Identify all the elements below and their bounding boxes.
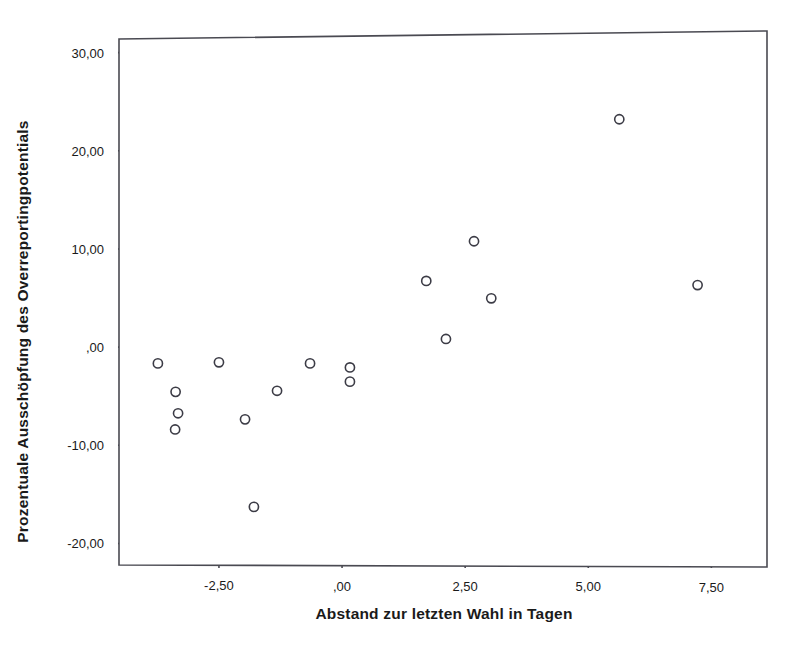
data-point (214, 358, 223, 367)
data-point (305, 359, 314, 368)
y-tick-label: -20,00 (44, 536, 104, 551)
data-point (153, 359, 162, 368)
data-point (422, 276, 431, 285)
y-tick-label: ,00 (44, 340, 104, 355)
data-point (249, 502, 258, 511)
y-axis-title: Prozentuale Ausschöpfung des Overreporti… (0, 0, 46, 663)
data-point (345, 363, 354, 372)
plot-frame-border (119, 31, 767, 567)
data-point (345, 377, 354, 386)
y-tick-label: 30,00 (44, 45, 104, 60)
x-tick-label: ,00 (333, 579, 351, 594)
x-tick-label: 2,50 (453, 579, 478, 594)
data-point (615, 115, 624, 124)
data-point (487, 294, 496, 303)
data-point (171, 387, 180, 396)
y-tick-label: 20,00 (44, 143, 104, 158)
plot-area (118, 30, 768, 568)
x-tick-label: 5,00 (576, 579, 601, 594)
data-point (469, 237, 478, 246)
data-point (693, 280, 702, 289)
data-point (272, 386, 281, 395)
scatter-plot-figure: Prozentuale Ausschöpfung des Overreporti… (0, 0, 803, 663)
plot-canvas (118, 30, 768, 568)
data-point (173, 409, 182, 418)
data-point (441, 334, 450, 343)
data-point-group (153, 115, 702, 512)
x-tick-label: 7,50 (699, 580, 724, 595)
y-tick-label: 10,00 (44, 241, 104, 256)
x-axis-title: Abstand zur letzten Wahl in Tagen (118, 605, 770, 623)
data-point (171, 425, 180, 434)
y-tick-label: -10,00 (44, 438, 104, 453)
data-point (240, 415, 249, 424)
x-tick-label: -2,50 (204, 578, 234, 593)
